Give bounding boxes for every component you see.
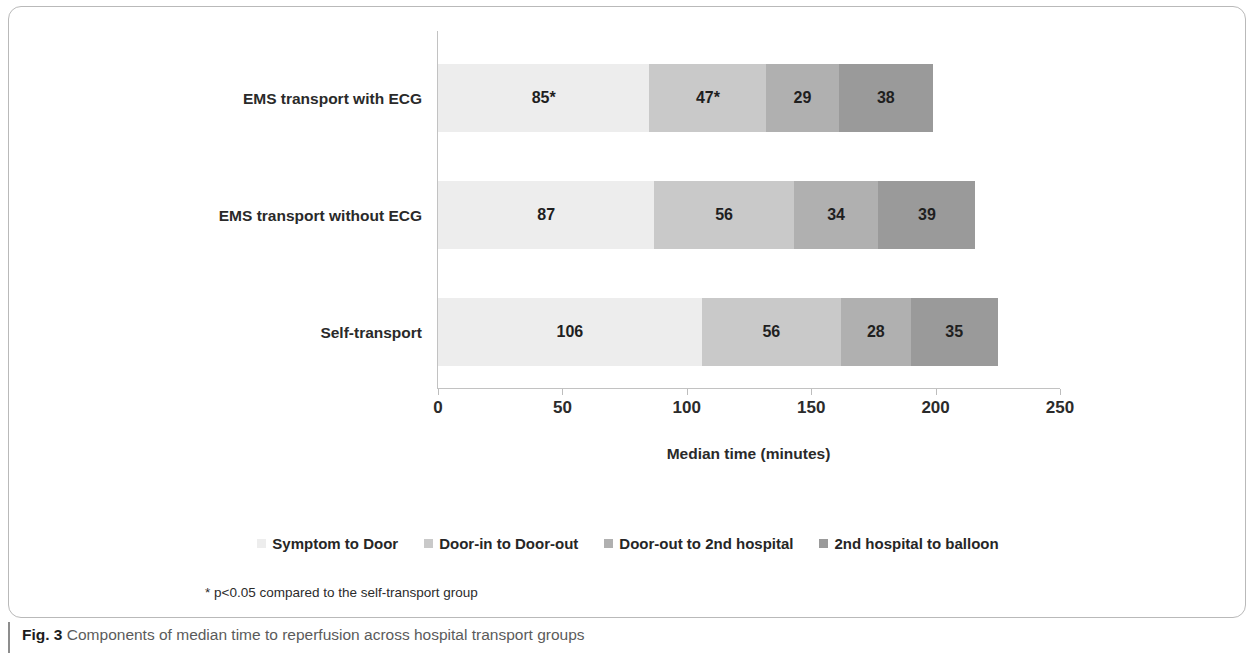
legend-swatch-icon bbox=[257, 539, 266, 548]
legend-swatch-icon bbox=[424, 539, 433, 548]
category-axis-label: EMS transport with ECG bbox=[243, 90, 422, 108]
caption-accent-bar bbox=[8, 622, 10, 653]
bar-row: 87563439 bbox=[438, 181, 1060, 249]
x-axis-tick-label: 150 bbox=[797, 398, 825, 418]
x-axis-tick-mark bbox=[562, 389, 563, 395]
legend-label: 2nd hospital to balloon bbox=[834, 535, 998, 552]
figure-caption-label: Fig. 3 bbox=[22, 626, 62, 643]
bar-segment: 34 bbox=[794, 181, 879, 249]
x-axis-tick-mark bbox=[811, 389, 812, 395]
bar-segment: 28 bbox=[841, 298, 911, 366]
bar-segment: 39 bbox=[878, 181, 975, 249]
x-axis-tick-mark bbox=[1060, 389, 1061, 395]
bar-row: 106562835 bbox=[438, 298, 1060, 366]
legend-label: Door-out to 2nd hospital bbox=[619, 535, 793, 552]
bar-segment: 87 bbox=[438, 181, 654, 249]
x-axis-tick-label: 100 bbox=[673, 398, 701, 418]
bar-segment: 47* bbox=[649, 64, 766, 132]
footnote-text: * p<0.05 compared to the self-transport … bbox=[205, 585, 478, 600]
bar-segment: 106 bbox=[438, 298, 702, 366]
bar-segment: 85* bbox=[438, 64, 649, 132]
legend-item: Symptom to Door bbox=[257, 535, 398, 552]
x-axis-tick-label: 200 bbox=[921, 398, 949, 418]
bar-segment: 56 bbox=[654, 181, 793, 249]
x-axis-tick-mark bbox=[687, 389, 688, 395]
x-axis-tick-label: 0 bbox=[433, 398, 442, 418]
x-axis-tick-label: 250 bbox=[1046, 398, 1074, 418]
x-axis-line bbox=[437, 388, 1060, 389]
chart-legend: Symptom to DoorDoor-in to Door-outDoor-o… bbox=[9, 535, 1247, 552]
legend-swatch-icon bbox=[819, 539, 828, 548]
x-axis-tick-mark bbox=[438, 389, 439, 395]
chart-plot-area: 050100150200250 EMS transport with ECGEM… bbox=[9, 7, 1247, 619]
figure-caption: Fig. 3 Components of median time to repe… bbox=[22, 626, 585, 644]
bar-segment: 38 bbox=[839, 64, 934, 132]
legend-label: Symptom to Door bbox=[272, 535, 398, 552]
x-axis-title: Median time (minutes) bbox=[437, 445, 1060, 463]
bar-row: 85*47*2938 bbox=[438, 64, 1060, 132]
legend-label: Door-in to Door-out bbox=[439, 535, 578, 552]
x-axis-tick-label: 50 bbox=[553, 398, 572, 418]
figure-frame: 050100150200250 EMS transport with ECGEM… bbox=[8, 6, 1246, 618]
legend-item: Door-in to Door-out bbox=[424, 535, 578, 552]
bar-segment: 35 bbox=[911, 298, 998, 366]
bar-segment: 29 bbox=[766, 64, 838, 132]
figure-caption-text: Components of median time to reperfusion… bbox=[67, 626, 585, 643]
x-axis-tick-mark bbox=[936, 389, 937, 395]
legend-swatch-icon bbox=[604, 539, 613, 548]
category-axis-label: Self-transport bbox=[320, 324, 422, 342]
category-axis-label: EMS transport without ECG bbox=[219, 207, 422, 225]
bar-segment: 56 bbox=[702, 298, 841, 366]
legend-item: 2nd hospital to balloon bbox=[819, 535, 998, 552]
legend-item: Door-out to 2nd hospital bbox=[604, 535, 793, 552]
